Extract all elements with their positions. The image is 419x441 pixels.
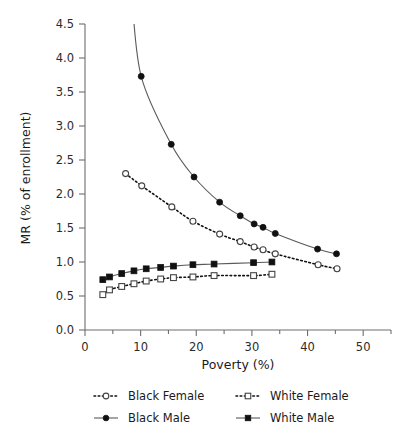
marker-open-square (131, 281, 137, 287)
marker-open-circle (190, 218, 196, 224)
marker-filled-circle (237, 213, 243, 219)
marker-filled-circle (103, 415, 109, 421)
marker-filled-square (158, 265, 164, 271)
marker-filled-circle (138, 73, 144, 79)
marker-filled-circle (251, 221, 257, 227)
marker-filled-square (107, 274, 113, 280)
marker-open-circle (237, 239, 243, 245)
legend-item-label: Black Male (128, 411, 190, 425)
y-tick-label: 3.5 (56, 85, 74, 99)
chart-canvas: 0.00.51.01.52.02.53.03.54.04.5 010203040… (0, 0, 419, 441)
marker-open-square (119, 284, 125, 290)
marker-filled-circle (260, 224, 266, 230)
legend: Black FemaleWhite FemaleBlack MaleWhite … (94, 389, 349, 425)
y-tick-group: 0.00.51.01.52.02.53.03.54.04.5 (56, 17, 85, 337)
y-tick-label: 1.0 (56, 255, 74, 269)
y-axis-title: MR (% of enrollment) (18, 112, 33, 245)
y-tick-label: 2.5 (56, 153, 74, 167)
marker-filled-circle (315, 246, 321, 252)
x-axis-title: Poverty (%) (202, 357, 275, 372)
marker-open-circle (103, 393, 109, 399)
marker-filled-circle (217, 199, 223, 205)
marker-filled-square (245, 415, 251, 421)
marker-open-square (251, 273, 257, 279)
marker-filled-circle (168, 141, 174, 147)
marker-filled-square (251, 260, 257, 266)
x-tick-label: 40 (300, 340, 315, 354)
series-white-male (100, 259, 275, 282)
chart-figure: 0.00.51.01.52.02.53.03.54.04.5 010203040… (0, 0, 419, 441)
marker-filled-square (119, 271, 125, 277)
series-line (132, 0, 337, 254)
y-tick-label: 0.5 (56, 289, 74, 303)
marker-filled-square (143, 266, 149, 272)
legend-item-black-male: Black Male (94, 411, 190, 425)
x-tick-label: 30 (245, 340, 260, 354)
y-tick-label: 0.0 (56, 323, 74, 337)
series-white-female (100, 271, 275, 297)
marker-open-square (100, 292, 106, 298)
marker-open-square (158, 276, 164, 282)
marker-filled-square (269, 259, 275, 265)
x-tick-label: 20 (189, 340, 204, 354)
y-tick-label: 2.0 (56, 187, 74, 201)
marker-filled-circle (333, 251, 339, 257)
marker-filled-circle (191, 174, 197, 180)
marker-open-square (143, 278, 149, 284)
legend-item-label: White Male (270, 411, 334, 425)
y-tick-label: 3.0 (56, 119, 74, 133)
legend-item-label: White Female (270, 389, 349, 403)
series-black-female (123, 171, 340, 272)
marker-open-circle (315, 262, 321, 268)
marker-open-circle (251, 244, 257, 250)
x-tick-label: 50 (356, 340, 371, 354)
series-line (126, 174, 337, 269)
marker-filled-square (131, 268, 137, 274)
marker-open-circle (217, 231, 223, 237)
marker-filled-square (211, 261, 217, 267)
marker-open-square (269, 271, 275, 277)
marker-open-square (190, 274, 196, 280)
marker-open-circle (334, 266, 340, 272)
marker-open-square (171, 275, 177, 281)
y-tick-label: 4.0 (56, 51, 74, 65)
x-tick-label: 10 (133, 340, 148, 354)
x-tick-label: 0 (81, 340, 88, 354)
legend-item-label: Black Female (128, 389, 204, 403)
marker-open-circle (272, 251, 278, 257)
marker-open-circle (260, 247, 266, 253)
x-tick-group: 01020304050 (81, 330, 391, 354)
legend-item-black-female: Black Female (94, 389, 204, 403)
marker-open-circle (123, 171, 129, 177)
marker-open-square (107, 287, 113, 293)
legend-item-white-female: White Female (236, 389, 349, 403)
series-black-male (132, 0, 340, 257)
marker-filled-square (190, 262, 196, 268)
legend-item-white-male: White Male (236, 411, 334, 425)
marker-open-circle (169, 204, 175, 210)
marker-open-circle (139, 183, 145, 189)
y-tick-label: 1.5 (56, 221, 74, 235)
marker-filled-circle (272, 230, 278, 236)
marker-filled-square (171, 263, 177, 269)
marker-filled-square (100, 277, 106, 283)
series-layer (100, 0, 340, 298)
marker-open-square (211, 273, 217, 279)
marker-open-square (245, 393, 251, 399)
y-tick-label: 4.5 (56, 17, 74, 31)
series-line (103, 274, 272, 294)
